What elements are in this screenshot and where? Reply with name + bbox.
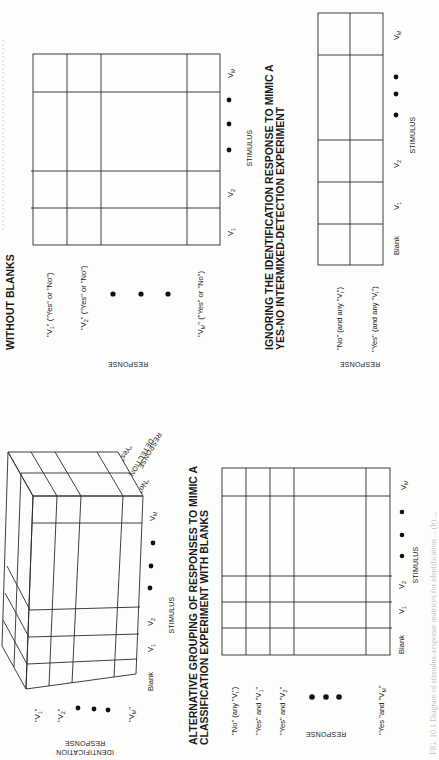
ident-label-v2: "V2" xyxy=(56,708,66,722)
col-label-v2: V2 xyxy=(397,581,407,589)
panel-classification-with-blanks: ALTERNATIVE GROUPING OF RESPONSES TO MIM… xyxy=(187,466,419,745)
col-label-v1: V1 xyxy=(226,228,236,236)
col-label-blank: Blank xyxy=(392,236,401,255)
detection-level-no: "No" xyxy=(136,477,151,495)
panel-title-without-blanks: WITHOUT BLANKS xyxy=(4,254,16,350)
col-label-vm: VM xyxy=(226,68,236,78)
panel-yes-no-detection: IGNORING THE IDENTIFICATION RESPONSE TO … xyxy=(263,13,416,368)
row-label-yes-v1: "Yes" and "V1" xyxy=(254,687,264,736)
stimulus-axis-label: STIMULUS xyxy=(412,546,419,583)
col-label-v2: V2 xyxy=(226,189,236,197)
row-label-yes-vm: "Yes "and "VM" xyxy=(377,685,387,735)
stimulus-axis-label: STIMULUS xyxy=(246,129,253,166)
row-label-yes-v2: "Yes" and "V2" xyxy=(278,687,288,736)
row-label-no: "No" (and any "Vi") xyxy=(335,286,345,350)
col-label-vm: VM xyxy=(399,480,409,490)
col-label-vm: VM xyxy=(148,511,158,521)
matrix-grid-without-blanks xyxy=(31,54,220,245)
ident-axis-label-line1: IDENTIFICATION xyxy=(56,749,114,756)
col-ellipsis-dots xyxy=(227,98,232,153)
col-label-v1: V1 xyxy=(146,644,156,652)
ident-label-v1: "V1" xyxy=(33,708,43,722)
detection-level-yes: "Yes" xyxy=(117,443,134,463)
matrix-grid-classification xyxy=(222,468,392,655)
response-axis-label: RESPONSE xyxy=(340,361,381,368)
row-label-no-any: "No" (any "Vi") xyxy=(230,686,240,735)
col-label-blank: Blank xyxy=(146,672,155,691)
col-ellipsis-dots xyxy=(394,75,399,118)
response-axis-label: RESPONSE xyxy=(108,361,149,368)
panel-3d-cube: "V1" "V2" "VM" IDENTIFICATION RESPONSE B… xyxy=(2,432,175,757)
ident-ellipsis-dots xyxy=(76,706,111,713)
figure-caption: FIG. 10.1 Diagram of stimulus–response m… xyxy=(429,512,438,755)
matrix-grid-yes-no xyxy=(318,13,383,265)
stimulus-response-cube xyxy=(2,452,143,689)
response-axis-label: RESPONSE xyxy=(306,731,347,738)
col-label-v1: V1 xyxy=(392,202,402,210)
stimulus-axis-label: STIMULUS xyxy=(409,116,416,153)
panel-title-classification-line2: CLASSIFICATION EXPERIMENT WITH BLANKS xyxy=(198,510,210,745)
col-ellipsis-dots xyxy=(400,510,405,559)
row-ellipsis-dots xyxy=(110,291,170,296)
col-label-v1: V1 xyxy=(397,606,407,614)
col-label-blank: Blank xyxy=(397,635,406,654)
row-ellipsis-dots xyxy=(309,694,342,700)
stimulus-axis-label: STIMULUS xyxy=(168,596,175,633)
col-ellipsis-dots xyxy=(148,541,156,591)
panel-without-blanks: WITHOUT BLANKS "V1" ("Yes" or "No") "V2"… xyxy=(4,54,253,368)
ident-label-vm: "VM" xyxy=(127,707,137,722)
row-label-vm: "VM" ("Yes" or "No") xyxy=(196,270,206,337)
ident-axis-label-line2: RESPONSE xyxy=(65,740,106,747)
col-label-v2: V2 xyxy=(392,160,402,168)
row-label-v2: "V2" ("Yes" or "No") xyxy=(79,265,89,330)
col-label-v2: V2 xyxy=(146,618,156,626)
figure-page: WITHOUT BLANKS "V1" ("Yes" or "No") "V2"… xyxy=(0,0,439,760)
panel-title-yes-no-line2: YES-NO INTERMIXED-DETECTION EXPERIMENT xyxy=(274,106,286,350)
row-label-yes: "Yes" (and any "Vi") xyxy=(370,286,380,352)
row-label-v1: "V1" ("Yes" or "No") xyxy=(45,272,55,337)
col-label-vm: VM xyxy=(392,30,402,40)
